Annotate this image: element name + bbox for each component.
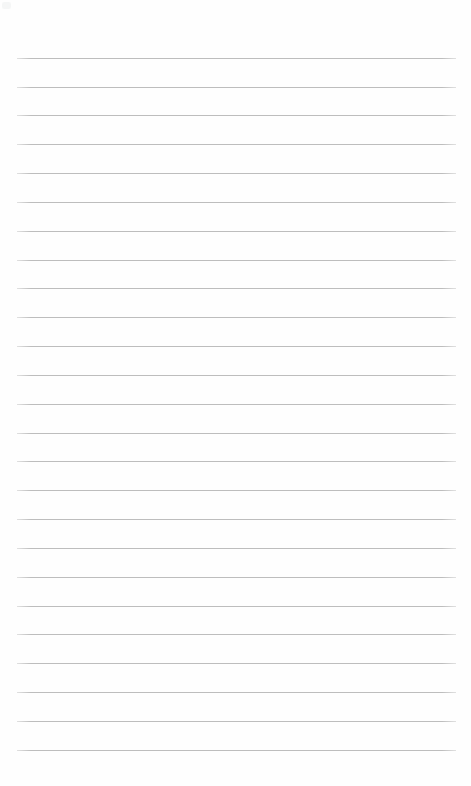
text-row[interactable] bbox=[17, 59, 456, 87]
rule-line bbox=[17, 750, 456, 751]
text-row[interactable] bbox=[17, 433, 456, 461]
text-row[interactable] bbox=[17, 318, 456, 346]
text-row[interactable] bbox=[17, 405, 456, 433]
text-row[interactable] bbox=[17, 462, 456, 490]
text-row[interactable] bbox=[17, 606, 456, 634]
text-row[interactable] bbox=[17, 174, 456, 202]
text-row[interactable] bbox=[17, 145, 456, 173]
text-row[interactable] bbox=[17, 693, 456, 721]
text-row[interactable] bbox=[17, 376, 456, 404]
text-row[interactable] bbox=[17, 635, 456, 663]
text-row[interactable] bbox=[17, 203, 456, 231]
text-row[interactable] bbox=[17, 520, 456, 548]
text-row[interactable] bbox=[17, 664, 456, 692]
text-row[interactable] bbox=[17, 289, 456, 317]
text-row[interactable] bbox=[17, 260, 456, 288]
text-row[interactable] bbox=[17, 578, 456, 606]
text-row[interactable] bbox=[17, 347, 456, 375]
text-row[interactable] bbox=[17, 722, 456, 750]
text-row[interactable] bbox=[17, 30, 456, 58]
ruled-writing-area[interactable] bbox=[0, 0, 471, 786]
paper-sheet bbox=[0, 0, 471, 786]
text-row[interactable] bbox=[17, 116, 456, 144]
text-row[interactable] bbox=[17, 87, 456, 115]
text-row[interactable] bbox=[17, 549, 456, 577]
text-row[interactable] bbox=[17, 232, 456, 260]
text-row[interactable] bbox=[17, 491, 456, 519]
